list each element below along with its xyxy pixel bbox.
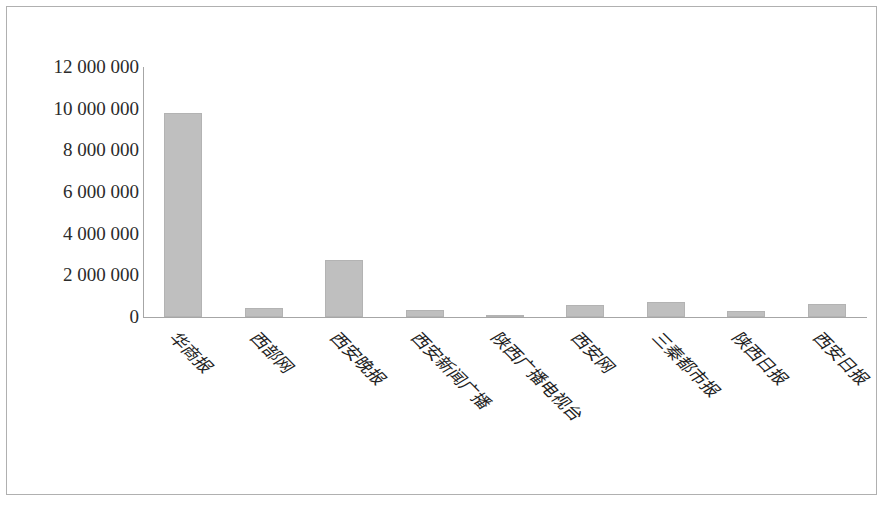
y-axis-tick-label: 4 000 000 [11,224,139,243]
category-label-slot: 三秦都市报 [626,319,706,489]
bars-layer [143,67,867,317]
y-axis-tick-label: 2 000 000 [11,265,139,284]
bar[interactable] [647,302,685,317]
bar-slot [787,67,867,317]
bar[interactable] [245,308,283,317]
y-axis-tick-label: 12 000 000 [11,57,139,76]
category-label-slot: 西部网 [223,319,303,489]
category-label-slot: 西安新闻广播 [384,319,464,489]
bar-slot [626,67,706,317]
bar[interactable] [566,305,604,317]
y-axis-tick-label: 8 000 000 [11,140,139,159]
category-label-slot: 西安晚报 [304,319,384,489]
bar-slot [706,67,786,317]
bar-slot [545,67,625,317]
x-axis-line [143,317,867,318]
y-axis-tick-labels: 12 000 00010 000 0008 000 0006 000 0004 … [7,7,139,496]
category-label-slot: 西安日报 [787,319,867,489]
category-label: 西安网 [567,327,617,377]
category-label: 西安日报 [809,327,871,389]
y-axis-tick-label: 10 000 000 [11,99,139,118]
category-label: 陕西日报 [728,327,790,389]
bar[interactable] [808,304,846,317]
bar[interactable] [727,311,765,317]
x-axis-category-labels: 华商报西部网西安晚报西安新闻广播陕西广播电视台西安网三秦都市报陕西日报西安日报 [143,319,867,489]
bar[interactable] [325,260,363,317]
bar[interactable] [406,310,444,317]
category-label-slot: 华商报 [143,319,223,489]
bar[interactable] [164,113,202,317]
category-label-slot: 陕西广播电视台 [465,319,545,489]
bar-slot [143,67,223,317]
y-axis-tick-label: 6 000 000 [11,182,139,201]
bar-slot [223,67,303,317]
bar[interactable] [486,315,524,317]
chart-frame: 12 000 00010 000 0008 000 0006 000 0004 … [6,6,877,495]
y-axis-tick-label: 0 [11,307,139,326]
bar-slot [465,67,545,317]
category-label-slot: 陕西日报 [706,319,786,489]
bar-slot [304,67,384,317]
category-label-slot: 西安网 [545,319,625,489]
category-label: 西安晚报 [326,327,388,389]
plot-area: 12 000 00010 000 0008 000 0006 000 0004 … [7,7,878,496]
category-label: 华商报 [165,327,215,377]
bar-slot [384,67,464,317]
category-label: 西部网 [246,327,296,377]
